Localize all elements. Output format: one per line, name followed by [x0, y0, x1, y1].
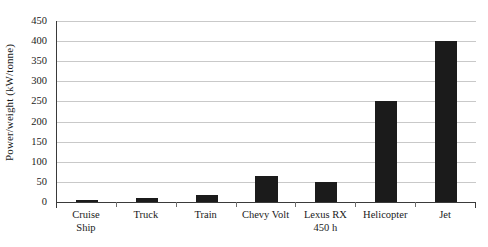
x-axis-tick: [295, 202, 296, 207]
x-axis-tick: [415, 202, 416, 207]
y-axis-title: Power/weight (kW/tonne): [0, 0, 18, 205]
y-axis-tick-label: 100: [31, 157, 47, 168]
bar-slot: [416, 21, 476, 202]
bar-slot: [356, 21, 416, 202]
bar-slot: [117, 21, 177, 202]
x-axis-category-label-line1: Train: [194, 209, 216, 220]
x-axis-category-label-line2: Ship: [56, 222, 116, 235]
bar-slot: [296, 21, 356, 202]
y-axis-tick-label: 450: [31, 16, 47, 27]
bar[interactable]: [255, 176, 277, 202]
y-axis-title-text: Power/weight (kW/tonne): [4, 44, 15, 161]
x-axis-category-label-line1: Chevy Volt: [242, 209, 289, 220]
x-axis-category-label-line1: Jet: [439, 209, 451, 220]
bar[interactable]: [435, 41, 457, 202]
plot-area: [56, 21, 476, 202]
y-axis-tick-label: 50: [37, 177, 48, 188]
x-axis-tick: [56, 202, 57, 208]
x-axis-tick: [236, 202, 237, 207]
x-axis-category-label: Truck: [116, 209, 176, 247]
bar[interactable]: [375, 101, 397, 202]
x-axis-category-label-line1: Cruise: [72, 209, 99, 220]
y-axis-tick-label: 400: [31, 36, 47, 47]
x-axis-category-label-line1: Truck: [133, 209, 158, 220]
x-axis-tick-labels: CruiseShipTruckTrainChevy VoltLexus RX45…: [56, 209, 475, 247]
x-axis-category-label: Lexus RX450 h: [295, 209, 355, 247]
y-axis-tick-label: 150: [31, 136, 47, 147]
bar[interactable]: [196, 195, 218, 202]
x-axis-category-label-line2: 450 h: [295, 222, 355, 235]
x-axis-category-label: Chevy Volt: [236, 209, 296, 247]
y-axis-tick-label: 300: [31, 76, 47, 87]
bar-slot: [57, 21, 117, 202]
y-axis-tick-label: 200: [31, 116, 47, 127]
bar-series: [57, 21, 476, 202]
x-axis-tick: [116, 202, 117, 207]
y-axis-tick-label: 350: [31, 56, 47, 67]
x-axis-ticks: [56, 202, 475, 208]
x-axis-tick: [176, 202, 177, 207]
x-axis-category-label: Helicopter: [355, 209, 415, 247]
x-axis-tick: [355, 202, 356, 207]
x-axis-tick: [475, 202, 476, 208]
y-axis-tick-labels: 050100150200250300350400450: [18, 14, 51, 202]
x-axis-category-label: Jet: [415, 209, 475, 247]
y-axis-tick-label: 0: [42, 197, 47, 208]
bar[interactable]: [315, 182, 337, 202]
x-axis-category-label-line1: Lexus RX: [304, 209, 347, 220]
y-axis-tick-label: 250: [31, 96, 47, 107]
x-axis-category-label-line1: Helicopter: [363, 209, 407, 220]
x-axis-category-label: Train: [176, 209, 236, 247]
x-axis-category-label: CruiseShip: [56, 209, 116, 247]
bar-chart: Power/weight (kW/tonne) 0501001502002503…: [0, 0, 488, 247]
bar-slot: [237, 21, 297, 202]
bar-slot: [177, 21, 237, 202]
